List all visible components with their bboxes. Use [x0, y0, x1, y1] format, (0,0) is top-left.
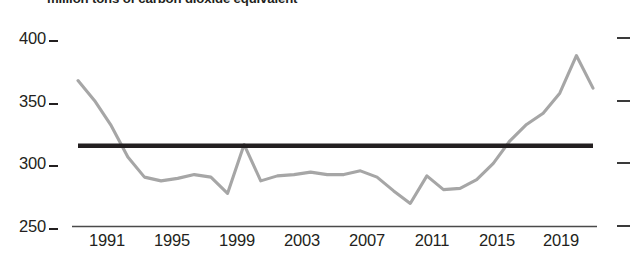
- x-axis-tick-1991: 1991: [89, 231, 125, 250]
- x-axis-tick-2011: 2011: [415, 231, 450, 250]
- chart-container: million tons of carbon dioxide equivalen…: [0, 0, 638, 276]
- x-axis-tick-1999: 1999: [219, 231, 255, 250]
- x-axis-tick-2019: 2019: [543, 231, 579, 250]
- x-axis-tick-2007: 2007: [349, 231, 385, 250]
- emissions-line: [78, 56, 593, 204]
- x-axis-tick-2003: 2003: [284, 231, 320, 250]
- x-axis-tick-2015: 2015: [479, 231, 515, 250]
- x-axis-tick-1995: 1995: [154, 231, 190, 250]
